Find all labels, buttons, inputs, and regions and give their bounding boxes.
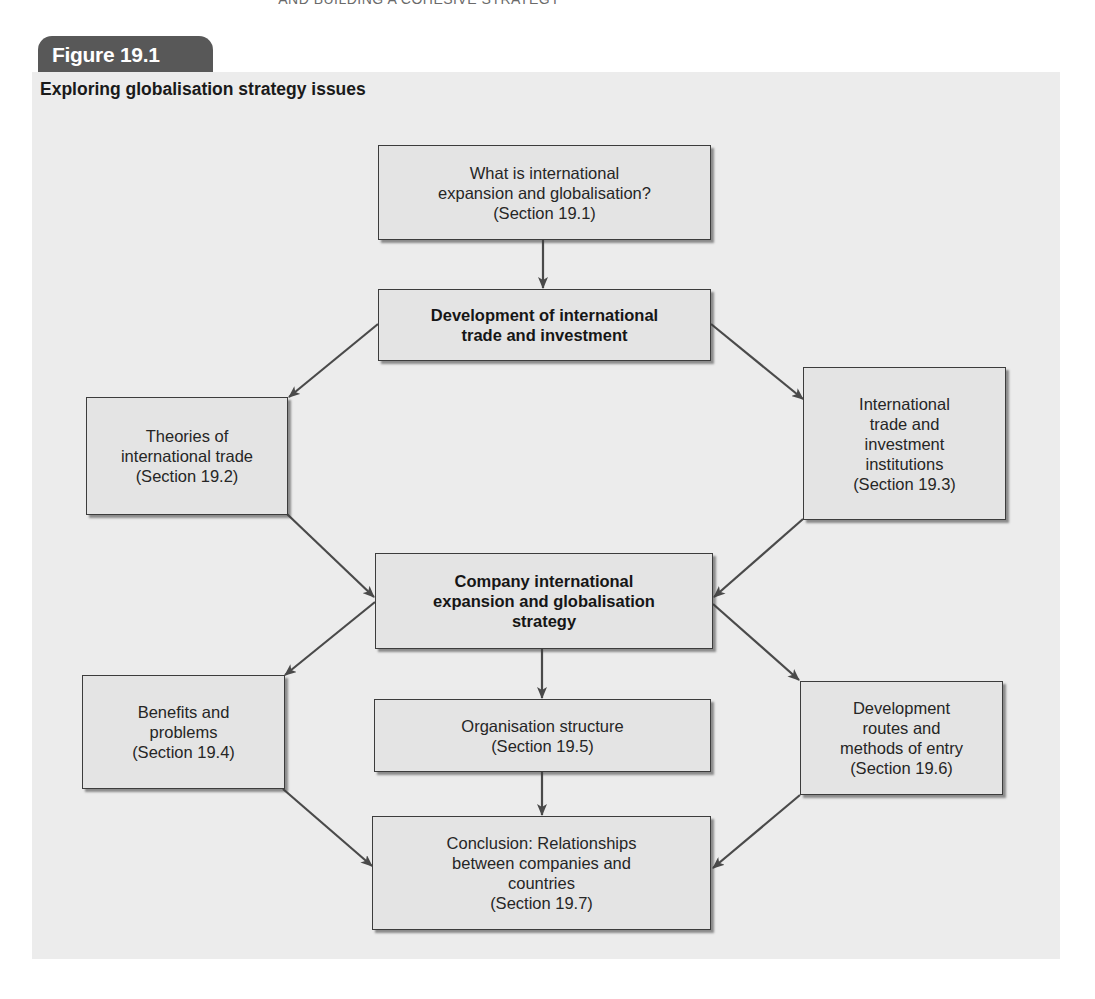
node-line: trade and bbox=[870, 414, 940, 434]
node-line: routes and bbox=[863, 718, 941, 738]
figure-title: Exploring globalisation strategy issues bbox=[40, 79, 366, 100]
node-line: Company international bbox=[455, 571, 634, 591]
node-line: (Section 19.1) bbox=[493, 203, 596, 223]
node-line: institutions bbox=[866, 454, 944, 474]
node-line: problems bbox=[150, 722, 218, 742]
node-line: (Section 19.6) bbox=[850, 758, 953, 778]
node-line: (Section 19.4) bbox=[132, 742, 235, 762]
node-benefits-problems: Benefits and problems (Section 19.4) bbox=[82, 675, 285, 789]
node-line: Benefits and bbox=[138, 702, 230, 722]
node-line: What is international bbox=[470, 163, 620, 183]
node-development-routes-entry: Development routes and methods of entry … bbox=[800, 681, 1003, 795]
node-trade-investment-institutions: International trade and investment insti… bbox=[803, 367, 1006, 520]
node-line: (Section 19.7) bbox=[490, 893, 593, 913]
node-line: (Section 19.3) bbox=[853, 474, 956, 494]
node-line: trade and investment bbox=[462, 325, 628, 345]
node-line: Development of international bbox=[431, 305, 658, 325]
node-line: Conclusion: Relationships bbox=[447, 833, 637, 853]
node-line: expansion and globalisation? bbox=[438, 183, 651, 203]
node-line: international trade bbox=[121, 446, 253, 466]
node-line: strategy bbox=[512, 611, 576, 631]
node-line: (Section 19.2) bbox=[136, 466, 239, 486]
node-theories-international-trade: Theories of international trade (Section… bbox=[86, 397, 288, 515]
node-line: between companies and bbox=[452, 853, 631, 873]
node-line: expansion and globalisation bbox=[433, 591, 655, 611]
node-line: International bbox=[859, 394, 950, 414]
node-company-globalisation-strategy: Company international expansion and glob… bbox=[375, 553, 713, 649]
node-what-is-globalisation: What is international expansion and glob… bbox=[378, 145, 711, 240]
node-line: methods of entry bbox=[840, 738, 963, 758]
node-line: Organisation structure bbox=[461, 716, 623, 736]
node-line: (Section 19.5) bbox=[491, 736, 594, 756]
running-head: AND BUILDING A COHESIVE STRATEGY bbox=[0, 0, 560, 7]
figure-label-tab: Figure 19.1 bbox=[38, 36, 213, 73]
node-line: Theories of bbox=[146, 426, 229, 446]
node-conclusion-relationships: Conclusion: Relationships between compan… bbox=[372, 816, 711, 930]
node-line: investment bbox=[865, 434, 945, 454]
node-line: countries bbox=[508, 873, 575, 893]
node-development-trade-investment: Development of international trade and i… bbox=[378, 289, 711, 361]
node-organisation-structure: Organisation structure (Section 19.5) bbox=[374, 699, 711, 772]
node-line: Development bbox=[853, 698, 950, 718]
